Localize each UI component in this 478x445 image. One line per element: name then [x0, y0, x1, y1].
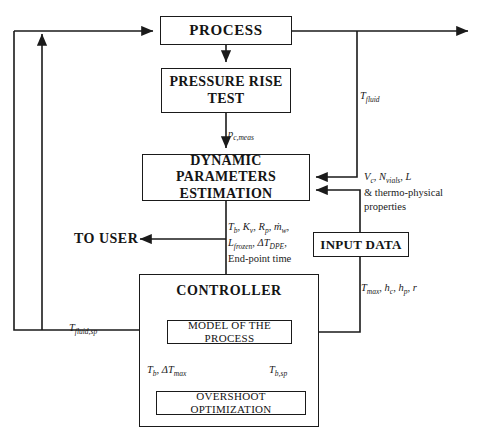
line-tfluid-to-dpe — [316, 31, 357, 177]
block-controller-label: CONTROLLER — [140, 283, 318, 299]
signal-label-input-to-dpe: Vc, Nvials, L & thermo-physical properti… — [364, 170, 443, 215]
block-pressure-rise-test-line2: TEST — [169, 91, 282, 108]
signal-label-dpe-output: Tb, Kv, Rp, ṁw, Lfrozen, ΔTDPE, End-poin… — [228, 220, 291, 267]
block-dpe-line1: DYNAMIC PARAMETERS — [145, 153, 307, 186]
signal-label-input-to-controller: Tmax, hc, hp, r — [361, 281, 417, 297]
signal-label-t-fluid: Tfluid — [360, 89, 380, 105]
signal-label-dpe-output-line3: End-point time — [228, 252, 291, 266]
line-controller-to-process-left — [14, 31, 139, 330]
block-process: PROCESS — [160, 16, 292, 45]
block-input-data: INPUT DATA — [313, 232, 409, 257]
signal-label-pc-meas: pc,meas — [228, 127, 254, 143]
block-dynamic-parameters-estimation: DYNAMIC PARAMETERS ESTIMATION — [142, 154, 310, 201]
line-input-to-dpe — [316, 190, 360, 232]
block-pressure-rise-test: PRESSURE RISE TEST — [161, 68, 291, 113]
signal-label-input-to-dpe-line3: properties — [364, 200, 443, 214]
block-model-of-the-process-label: MODEL OF THE PROCESS — [168, 319, 291, 345]
block-process-label: PROCESS — [189, 22, 262, 39]
block-pressure-rise-test-line1: PRESSURE RISE — [169, 74, 282, 91]
label-to-user: TO USER — [74, 231, 138, 247]
block-input-data-label: INPUT DATA — [320, 237, 401, 252]
block-overshoot-optimization: OVERSHOOT OPTIMIZATION — [156, 391, 306, 415]
signal-label-t-fluid-sp: Tfluid,sp — [69, 321, 97, 337]
block-model-of-the-process: MODEL OF THE PROCESS — [167, 320, 292, 344]
block-dpe-line2: ESTIMATION — [145, 186, 307, 203]
signal-label-input-to-dpe-line2: & thermo-physical — [364, 186, 443, 200]
block-overshoot-optimization-label: OVERSHOOT OPTIMIZATION — [157, 390, 305, 416]
signal-label-overshoot-to-model: Tb,sp — [269, 363, 287, 379]
block-flow-diagram: PROCESS PRESSURE RISE TEST DYNAMIC PARAM… — [0, 0, 478, 445]
signal-label-model-to-overshoot: Tb, ΔTmax — [147, 363, 186, 379]
